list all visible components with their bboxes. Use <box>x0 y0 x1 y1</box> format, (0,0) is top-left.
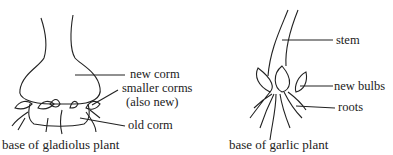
gladiolus-drawing <box>12 15 125 134</box>
bulb <box>275 66 289 92</box>
label-new-bulbs: new bulbs <box>334 80 385 93</box>
label-new-corm: new corm <box>130 68 180 81</box>
caption-garlic: base of garlic plant <box>229 137 328 153</box>
label-also-new: (also new) <box>126 96 178 109</box>
stem-shape <box>268 10 288 76</box>
garlic-drawing <box>250 10 335 140</box>
bulb <box>257 68 273 92</box>
bulb <box>295 72 306 92</box>
label-stem: stem <box>336 34 360 47</box>
caption-gladiolus: base of gladiolus plant <box>2 137 119 153</box>
label-roots: roots <box>338 101 363 114</box>
new-corm-shape <box>20 15 100 104</box>
diagram-drawing <box>0 0 393 155</box>
small-corm <box>70 101 78 108</box>
plant-bases-diagram: new corm smaller corms (also new) old co… <box>0 0 393 155</box>
label-smaller-corms: smaller corms <box>122 82 192 95</box>
small-corm <box>50 100 60 108</box>
label-old-corm: old corm <box>128 119 173 132</box>
